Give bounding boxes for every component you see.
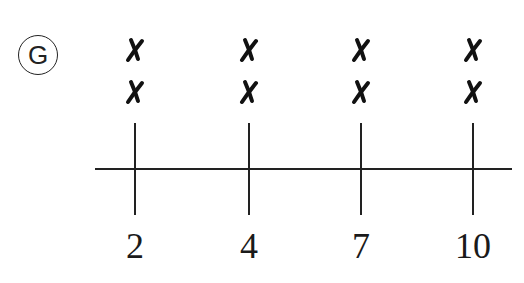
option-badge: G <box>18 35 58 75</box>
x-mark-icon <box>463 37 483 63</box>
x-mark-icon <box>239 37 259 63</box>
x-mark-icon <box>239 79 259 105</box>
tick-4 <box>248 123 250 215</box>
number-line <box>95 168 512 170</box>
x-mark-icon <box>125 79 145 105</box>
x-mark-icon <box>351 79 371 105</box>
tick-label-7: 7 <box>352 228 370 264</box>
tick-2 <box>134 123 136 215</box>
tick-label-2: 2 <box>126 228 144 264</box>
tick-7 <box>360 123 362 215</box>
x-mark-icon <box>125 37 145 63</box>
tick-label-4: 4 <box>240 228 258 264</box>
x-mark-icon <box>463 79 483 105</box>
option-label: G <box>28 40 48 71</box>
x-mark-icon <box>351 37 371 63</box>
tick-10 <box>472 123 474 215</box>
tick-label-10: 10 <box>455 228 491 264</box>
